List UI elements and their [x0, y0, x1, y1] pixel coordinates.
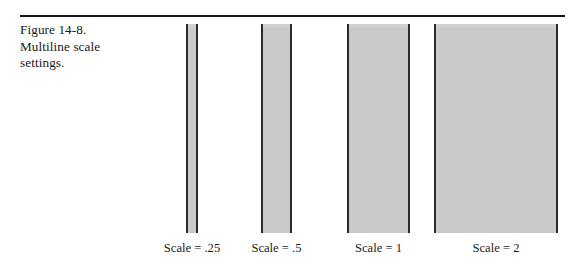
bar-group: Scale = 1: [347, 24, 410, 233]
bar-chart: Scale = .25Scale = .5Scale = 1Scale = 2: [0, 0, 587, 261]
bar-label: Scale = .5: [251, 241, 301, 255]
bar-group: Scale = .25: [186, 24, 198, 233]
bar-group: Scale = .5: [261, 24, 292, 233]
bar: [261, 24, 292, 233]
bar-label: Scale = 1: [355, 241, 402, 255]
bar-label: Scale = 2: [473, 241, 520, 255]
bar: [347, 24, 410, 233]
bar-label: Scale = .25: [164, 241, 220, 255]
bar-group: Scale = 2: [434, 24, 558, 233]
figure-page: Figure 14-8. Multiline scale settings. S…: [0, 0, 587, 261]
bar: [186, 24, 198, 233]
bar: [434, 24, 558, 233]
